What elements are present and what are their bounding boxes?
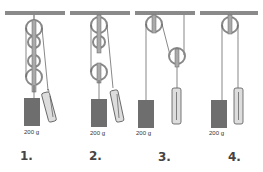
- ceiling-bar: [135, 11, 195, 15]
- mass-block: [138, 100, 154, 128]
- mass-block: [91, 99, 107, 127]
- mass-label-4: 200 g: [209, 130, 224, 136]
- panel-3: [135, 11, 195, 128]
- ceiling-bar: [5, 11, 65, 15]
- panel-4: [200, 11, 258, 128]
- mass-block: [24, 98, 40, 126]
- panel-1: [5, 11, 65, 126]
- mass-label-3: 200 g: [136, 130, 151, 136]
- panel-number-1: 1.: [20, 149, 33, 163]
- mass-label-1: 200 g: [24, 129, 39, 135]
- mass-block: [211, 100, 227, 128]
- mass-label-2: 200 g: [90, 130, 105, 136]
- ceiling-bar: [200, 11, 258, 15]
- panel-number-3: 3.: [158, 150, 171, 164]
- ceiling-bar: [70, 11, 130, 15]
- spring-scale-icon: [41, 91, 56, 122]
- panel-2: [70, 11, 130, 127]
- pulley-diagram: [0, 0, 263, 172]
- panel-number-2: 2.: [89, 149, 102, 163]
- panel-number-4: 4.: [228, 150, 241, 164]
